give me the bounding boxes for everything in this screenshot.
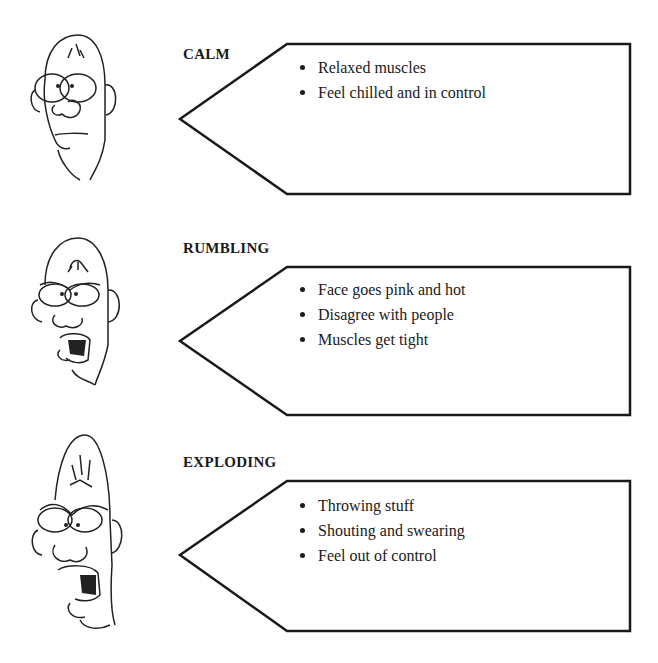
calm-label: CALM	[183, 46, 230, 63]
rumbling-label: RUMBLING	[183, 240, 270, 257]
calm-face-icon	[0, 30, 140, 190]
list-item: Face goes pink and hot	[300, 277, 466, 302]
calm-bullet-list: Relaxed muscles Feel chilled and in cont…	[300, 55, 486, 105]
rumbling-bullet-list: Face goes pink and hot Disagree with peo…	[300, 277, 466, 352]
list-item: Muscles get tight	[300, 327, 466, 352]
list-item: Feel chilled and in control	[300, 80, 486, 105]
list-item: Feel out of control	[300, 543, 465, 568]
list-item: Throwing stuff	[300, 493, 465, 518]
exploding-face-icon	[0, 425, 140, 645]
exploding-label: EXPLODING	[183, 454, 277, 471]
rumbling-face-icon	[0, 230, 140, 405]
list-item: Disagree with people	[300, 302, 466, 327]
list-item: Shouting and swearing	[300, 518, 465, 543]
exploding-bullet-list: Throwing stuff Shouting and swearing Fee…	[300, 493, 465, 568]
list-item: Relaxed muscles	[300, 55, 486, 80]
